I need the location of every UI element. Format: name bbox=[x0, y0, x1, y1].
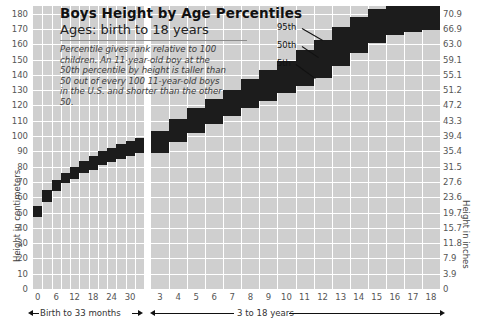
y-tick-left: 130 bbox=[2, 86, 28, 94]
percentile-band-segment bbox=[151, 131, 170, 152]
gridline-vertical bbox=[135, 156, 136, 289]
percentile-band-segment bbox=[332, 27, 351, 65]
y-tick-left: 90 bbox=[2, 147, 28, 155]
range-arrow-right-end bbox=[440, 310, 445, 316]
x-tick-year: 7 bbox=[223, 293, 241, 301]
y-tick-right: 27.6 bbox=[443, 178, 473, 186]
range-label-months: Birth to 33 months bbox=[40, 308, 121, 318]
x-tick-month: 0 bbox=[29, 293, 47, 301]
y-tick-left: 150 bbox=[2, 56, 28, 64]
gridline-vertical bbox=[98, 170, 99, 289]
gridline-vertical bbox=[42, 217, 43, 289]
y-axis-right-title: Height in inches bbox=[461, 200, 471, 269]
range-line-right-b bbox=[289, 313, 440, 314]
y-tick-right: 35.4 bbox=[443, 147, 473, 155]
gridline-vertical bbox=[296, 93, 297, 289]
percentile-band-segment bbox=[422, 6, 440, 30]
y-tick-right: 51.2 bbox=[443, 86, 473, 94]
x-tick-month: 12 bbox=[66, 293, 84, 301]
y-tick-right: 55.1 bbox=[443, 71, 473, 79]
callout-95th: 95th bbox=[277, 22, 296, 32]
y-axis-left-title: Height in centimeters bbox=[12, 170, 22, 262]
gridline-vertical bbox=[422, 32, 423, 289]
gridline-vertical bbox=[61, 191, 62, 289]
percentile-band-segment bbox=[350, 17, 369, 54]
percentile-band-segment bbox=[259, 70, 278, 101]
gridline-vertical bbox=[223, 124, 224, 289]
percentile-band-segment bbox=[241, 79, 260, 108]
x-tick-year: 9 bbox=[259, 293, 277, 301]
gridline-vertical bbox=[404, 35, 405, 289]
callout-5th: 5th bbox=[277, 58, 291, 68]
percentile-band-segment bbox=[314, 40, 333, 78]
percentile-band-segment bbox=[368, 9, 387, 43]
gridline-vertical bbox=[89, 173, 90, 289]
gridline-vertical bbox=[350, 66, 351, 289]
y-tick-right: 3.9 bbox=[443, 270, 473, 278]
range-arrow-left-end bbox=[138, 310, 143, 316]
x-tick-year: 16 bbox=[386, 293, 404, 301]
percentile-band-segment bbox=[169, 119, 188, 142]
percentile-band-segment bbox=[404, 6, 423, 32]
y-tick-left: 180 bbox=[2, 10, 28, 18]
x-tick-year: 11 bbox=[296, 293, 314, 301]
y-tick-right: 39.4 bbox=[443, 132, 473, 140]
page-title: Boys Height by Age Percentiles bbox=[60, 5, 302, 21]
x-tick-month: 6 bbox=[47, 293, 65, 301]
x-tick-year: 15 bbox=[368, 293, 386, 301]
x-tick-year: 4 bbox=[169, 293, 187, 301]
description-text: Percentile gives rank relative to 100 ch… bbox=[60, 44, 230, 108]
y-tick-left: 10 bbox=[2, 270, 28, 278]
gridline-vertical bbox=[259, 108, 260, 289]
callout-50th: 50th bbox=[277, 40, 296, 50]
y-tick-right: 66.9 bbox=[443, 25, 473, 33]
gridline-vertical bbox=[79, 179, 80, 289]
y-tick-right: 59.1 bbox=[443, 56, 473, 64]
gridline-vertical bbox=[126, 159, 127, 289]
gridline-vertical bbox=[277, 101, 278, 289]
gridline-vertical bbox=[332, 78, 333, 289]
range-line-right-a bbox=[155, 313, 234, 314]
gridline-vertical bbox=[205, 133, 206, 289]
gridline-vertical bbox=[386, 43, 387, 289]
x-tick-month: 18 bbox=[84, 293, 102, 301]
x-tick-year: 10 bbox=[277, 293, 295, 301]
gridline-vertical bbox=[169, 153, 170, 289]
percentile-band-segment bbox=[135, 138, 144, 153]
y-tick-right: 63.0 bbox=[443, 40, 473, 48]
x-tick-year: 5 bbox=[187, 293, 205, 301]
y-tick-right: 31.5 bbox=[443, 163, 473, 171]
y-tick-right: 43.3 bbox=[443, 117, 473, 125]
x-tick-year: 14 bbox=[350, 293, 368, 301]
gridline-vertical bbox=[116, 162, 117, 289]
range-line-left-a bbox=[33, 313, 39, 314]
y-tick-left: 0 bbox=[2, 285, 28, 293]
y-tick-right: 70.9 bbox=[443, 10, 473, 18]
header-divider bbox=[60, 40, 247, 41]
percentile-band-segment bbox=[187, 108, 206, 132]
y-tick-left: 140 bbox=[2, 71, 28, 79]
chart-canvas: 1801701601501401301201101009080706050403… bbox=[0, 0, 483, 333]
gridline-vertical bbox=[70, 183, 71, 289]
gridline-vertical bbox=[107, 165, 108, 289]
y-tick-left: 120 bbox=[2, 101, 28, 109]
percentile-band-segment bbox=[296, 50, 315, 85]
x-tick-year: 3 bbox=[151, 293, 169, 301]
y-tick-left: 110 bbox=[2, 117, 28, 125]
y-tick-left: 100 bbox=[2, 132, 28, 140]
x-tick-year: 8 bbox=[241, 293, 259, 301]
gridline-vertical bbox=[368, 53, 369, 289]
gridline-vertical bbox=[52, 202, 53, 289]
x-tick-year: 6 bbox=[205, 293, 223, 301]
y-tick-right: 0 bbox=[443, 285, 473, 293]
x-tick-year: 13 bbox=[332, 293, 350, 301]
y-tick-left: 160 bbox=[2, 40, 28, 48]
range-label-years: 3 to 18 years bbox=[237, 308, 294, 318]
gridline-vertical bbox=[241, 116, 242, 289]
page-subtitle: Ages: birth to 18 years bbox=[60, 22, 209, 37]
gridline-vertical bbox=[187, 142, 188, 289]
x-tick-year: 18 bbox=[422, 293, 440, 301]
y-tick-right: 47.2 bbox=[443, 101, 473, 109]
x-tick-year: 17 bbox=[404, 293, 422, 301]
x-tick-month: 30 bbox=[121, 293, 139, 301]
